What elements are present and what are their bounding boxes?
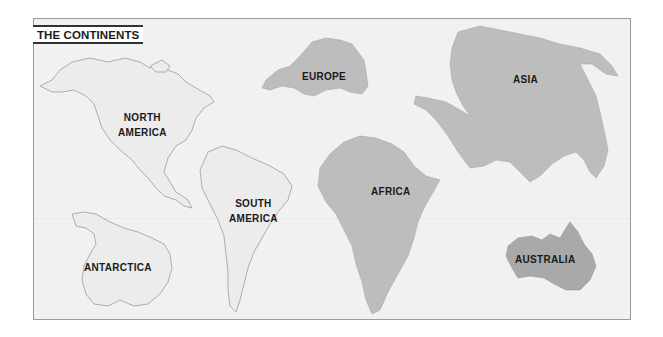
label-south-america: SOUTH AMERICA	[229, 196, 278, 226]
label-australia: AUSTRALIA	[515, 252, 575, 267]
label-north-america: NORTH AMERICA	[118, 110, 167, 140]
africa-shape	[318, 136, 440, 314]
label-south-america-line2: AMERICA	[229, 211, 278, 226]
label-asia: ASIA	[513, 72, 538, 87]
label-antarctica: ANTARCTICA	[84, 260, 152, 275]
label-europe: EUROPE	[302, 69, 346, 84]
label-south-america-line1: SOUTH	[229, 196, 278, 211]
south-america-shape	[200, 146, 292, 312]
map-title: THE CONTINENTS	[33, 25, 143, 44]
label-africa: AFRICA	[371, 184, 411, 199]
label-north-america-line2: AMERICA	[118, 125, 167, 140]
continents-map	[0, 0, 663, 337]
antarctica-shape	[72, 212, 172, 306]
europe-shape	[262, 38, 368, 96]
label-north-america-line1: NORTH	[118, 110, 167, 125]
asia-shape	[414, 26, 618, 182]
